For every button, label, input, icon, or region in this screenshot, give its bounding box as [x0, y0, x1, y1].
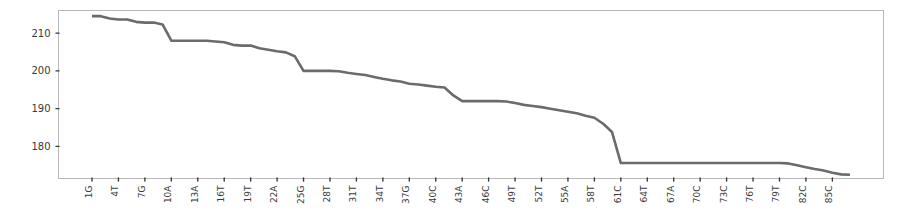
x-tick-label: 79T [771, 185, 781, 202]
x-tick-label: 67A [666, 185, 676, 203]
x-tick-label: 37G [401, 185, 411, 203]
x-tick-label: 64T [639, 185, 649, 202]
x-tick-label: 52T [534, 185, 544, 202]
x-tick-label: 4T [110, 185, 120, 197]
x-tick-label: 43A [454, 185, 464, 203]
x-tick-label: 49T [507, 185, 517, 202]
x-tick-label: 61C [613, 186, 623, 204]
x-tick-label: 55A [560, 185, 570, 203]
chart-figure: 180190200210 1G4T7G10A13A16T19T22A25G28T… [0, 0, 915, 223]
x-tick-label: 28T [322, 185, 332, 202]
x-tick-label: 1G [84, 185, 94, 198]
x-tick-label: 73C [719, 186, 729, 204]
x-tick-label: 10A [163, 185, 173, 203]
x-tick-label: 31T [348, 185, 358, 202]
x-tick-label: 85C [824, 186, 834, 204]
x-tick-label: 40C [428, 186, 438, 204]
x-tick-label: 70C [692, 186, 702, 204]
y-tick-label: 200 [31, 65, 50, 76]
x-tick-label: 25G [296, 185, 306, 203]
y-tick-label: 210 [31, 28, 50, 39]
x-tick-label: 13A [190, 185, 200, 203]
x-tick-label: 34T [375, 185, 385, 202]
x-tick-label: 46C [481, 186, 491, 204]
x-tick-label: 19T [243, 185, 253, 202]
line-chart-svg: 180190200210 1G4T7G10A13A16T19T22A25G28T… [0, 0, 915, 223]
y-tick-label: 180 [31, 141, 50, 152]
x-tick-label: 22A [269, 185, 279, 203]
x-tick-label: 76T [745, 185, 755, 202]
x-tick-label: 58T [586, 185, 596, 202]
x-tick-label: 7G [137, 185, 147, 198]
x-tick-label: 16T [216, 185, 226, 202]
x-tick-label: 82C [798, 186, 808, 204]
y-tick-label: 190 [31, 103, 50, 114]
